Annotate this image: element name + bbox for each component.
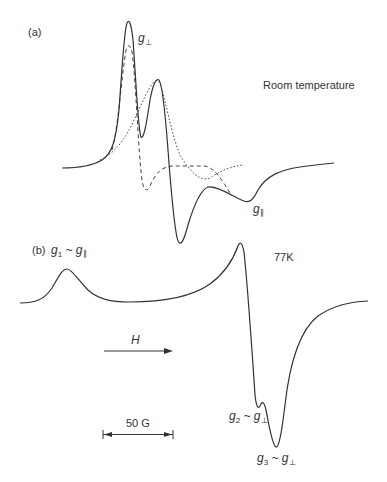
scale-bar: 50 G — [103, 417, 173, 439]
panel-a-dotted-curve — [100, 81, 244, 179]
g-perp-label-a: g⊥ — [138, 31, 152, 47]
field-arrow: H — [104, 333, 173, 354]
epr-figure: (a) Room temperature g⊥ g∥ (b) g1 ~ g∥ 7… — [0, 0, 387, 482]
low-temperature-label: 77K — [274, 251, 294, 263]
arrow-left-icon — [104, 432, 112, 437]
panel-a: (a) Room temperature g⊥ g∥ — [28, 21, 355, 243]
room-temperature-label: Room temperature — [263, 79, 355, 91]
panel-a-label: (a) — [28, 26, 41, 38]
panel-b: (b) g1 ~ g∥ 77K g2 ~ g⊥ g3 ~ g⊥ — [20, 243, 368, 467]
panel-a-dashed-curve — [112, 46, 232, 196]
panel-a-solid-curve — [62, 21, 334, 243]
g1-label: g1 ~ g∥ — [51, 243, 87, 259]
panel-b-solid-curve — [20, 243, 368, 447]
field-label: H — [131, 333, 140, 347]
arrow-right-icon — [164, 432, 172, 437]
g-par-label-a: g∥ — [253, 202, 264, 217]
panel-b-label: (b) — [32, 244, 45, 256]
arrow-right-icon — [164, 348, 173, 354]
g2-label: g2 ~ g⊥ — [229, 409, 268, 425]
scale-label: 50 G — [126, 417, 150, 429]
g3-label: g3 ~ g⊥ — [257, 451, 296, 467]
